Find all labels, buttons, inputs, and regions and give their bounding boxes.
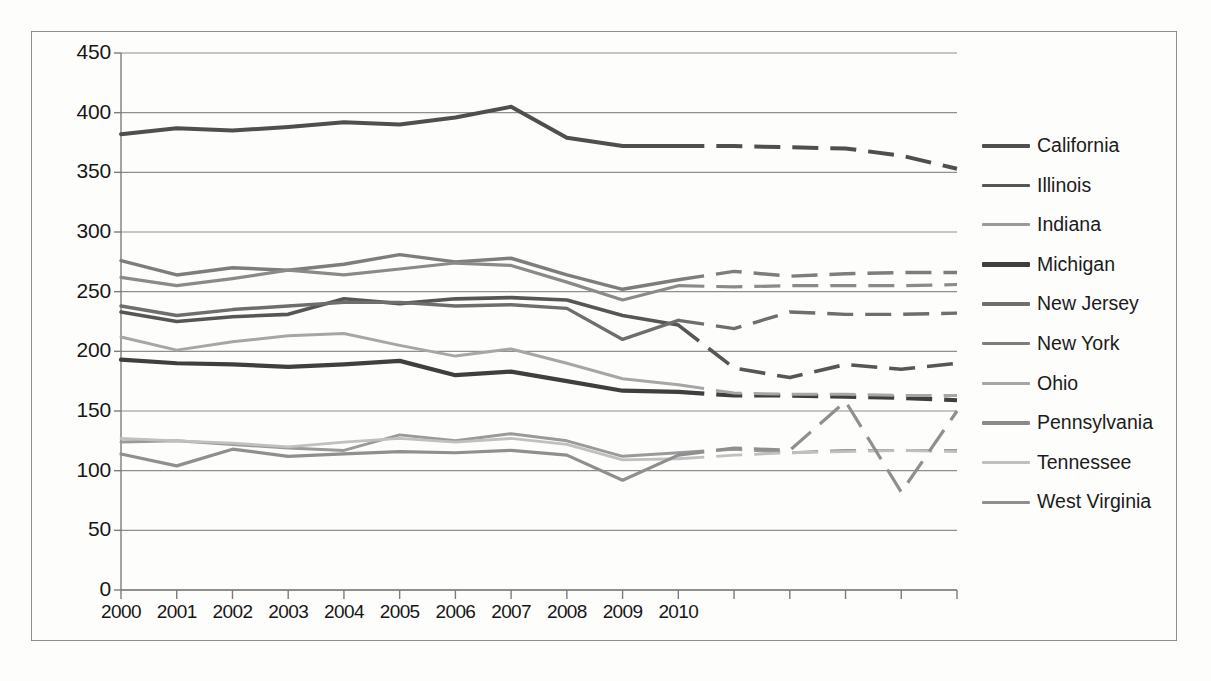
legend-item-label: California: [1037, 136, 1119, 156]
x-tick-label: 2002: [201, 601, 263, 623]
x-tick-label: 2004: [313, 601, 375, 623]
legend-swatch-icon: [982, 501, 1030, 504]
y-tick-label: 300: [35, 219, 111, 243]
legend-item-new-jersey[interactable]: New Jersey: [982, 284, 1197, 324]
legend-swatch-icon: [982, 421, 1030, 424]
x-tick-label: 2008: [536, 601, 598, 623]
legend-item-tennessee[interactable]: Tennessee: [982, 443, 1197, 483]
gridlines: [121, 53, 957, 590]
y-tick-label: 450: [35, 40, 111, 64]
series-forecast-pennsylvania: [678, 285, 957, 287]
legend-swatch-icon: [982, 262, 1030, 266]
legend-swatch-icon: [982, 461, 1030, 464]
legend-swatch-icon: [982, 144, 1030, 148]
y-tick-label: 250: [35, 279, 111, 303]
legend-item-indiana[interactable]: Indiana: [982, 205, 1197, 245]
legend-item-michigan[interactable]: Michigan: [982, 245, 1197, 285]
x-tick-label: 2005: [369, 601, 431, 623]
legend-item-label: Tennessee: [1037, 453, 1131, 473]
legend-item-label: Michigan: [1037, 255, 1115, 275]
legend-item-pennsylvania[interactable]: Pennsylvania: [982, 403, 1197, 443]
chart-page: 450400350300250200150100500 200020012002…: [0, 0, 1211, 681]
series-forecast-new-jersey: [678, 312, 957, 329]
x-tick-label: 2006: [424, 601, 486, 623]
series-forecast-west-virginia: [678, 401, 957, 492]
y-tick-label: 50: [35, 517, 111, 541]
legend-item-label: Indiana: [1037, 215, 1101, 235]
y-tick-label: 100: [35, 458, 111, 482]
legend-item-illinois[interactable]: Illinois: [982, 166, 1197, 206]
legend-item-west-virginia[interactable]: West Virginia: [982, 482, 1197, 522]
x-tick-label: 2010: [647, 601, 709, 623]
x-tick-label: 2007: [480, 601, 542, 623]
legend-item-label: New York: [1037, 334, 1119, 354]
y-tick-label: 0: [35, 577, 111, 601]
legend-swatch-icon: [982, 382, 1030, 385]
legend-item-new-york[interactable]: New York: [982, 324, 1197, 364]
legend-item-label: Illinois: [1037, 176, 1091, 196]
legend-item-california[interactable]: California: [982, 126, 1197, 166]
chart-legend: CaliforniaIllinoisIndianaMichiganNew Jer…: [982, 126, 1197, 522]
legend-item-label: West Virginia: [1037, 492, 1151, 512]
x-tick-label: 2003: [257, 601, 319, 623]
legend-swatch-icon: [982, 342, 1030, 345]
series-line-michigan: [121, 360, 678, 392]
series-forecast-tennessee: [678, 450, 957, 458]
legend-item-ohio[interactable]: Ohio: [982, 364, 1197, 404]
x-tick-marks: [121, 590, 957, 599]
series-forecast-new-york: [678, 271, 957, 279]
legend-item-label: New Jersey: [1037, 294, 1139, 314]
legend-swatch-icon: [982, 184, 1030, 188]
y-tick-label: 350: [35, 159, 111, 183]
x-tick-label: 2009: [592, 601, 654, 623]
legend-swatch-icon: [982, 223, 1030, 226]
data-series-layer: [121, 107, 957, 492]
legend-item-label: Pennsylvania: [1037, 413, 1153, 433]
x-tick-label: 2001: [146, 601, 208, 623]
axis-lines: [121, 53, 957, 590]
series-line-west-virginia: [121, 449, 678, 480]
legend-item-label: Ohio: [1037, 374, 1078, 394]
series-forecast-california: [678, 146, 957, 169]
x-tick-label: 2000: [90, 601, 152, 623]
y-tick-label: 150: [35, 398, 111, 422]
y-tick-label: 200: [35, 338, 111, 362]
y-tick-label: 400: [35, 100, 111, 124]
legend-swatch-icon: [982, 302, 1030, 305]
series-line-new-york: [121, 255, 678, 290]
